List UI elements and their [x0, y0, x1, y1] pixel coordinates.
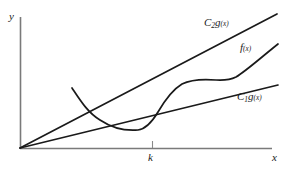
label-c2-arg: (x) [221, 20, 229, 28]
label-f-arg: (x) [243, 45, 251, 53]
tick-label-k: k [148, 152, 153, 163]
label-c1-arg: (x) [254, 94, 262, 102]
figure-container: y x k C2g(x) f(x) C1g(x) [0, 0, 289, 173]
plot-svg [0, 0, 289, 173]
label-c1-g-of-x: C1g(x) [237, 91, 262, 104]
label-c2-g-of-x: C2g(x) [204, 17, 229, 30]
curve-fx [72, 44, 278, 130]
line-c2g [20, 14, 277, 148]
label-f-of-x: f(x) [240, 42, 251, 53]
x-axis-label: x [272, 152, 277, 163]
y-axis-label: y [9, 11, 14, 22]
